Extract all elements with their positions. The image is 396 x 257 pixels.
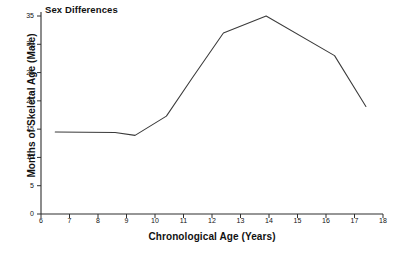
y-axis-tick-label: 0 (20, 210, 34, 217)
x-axis-tick-label: 12 (202, 217, 222, 224)
y-axis-tick-label: 30 (20, 40, 34, 47)
x-axis-tick-label: 9 (117, 217, 137, 224)
x-axis-tick-label: 15 (288, 217, 308, 224)
y-axis-label: Months of Skeletal Age (Male) (26, 11, 37, 201)
x-axis-tick-label: 6 (31, 217, 51, 224)
x-axis-tick-label: 8 (88, 217, 108, 224)
data-series-group (55, 16, 366, 135)
x-axis-label: Chronological Age (Years) (41, 231, 383, 242)
y-axis-ticks (37, 16, 41, 214)
y-axis-tick-label: 15 (20, 125, 34, 132)
y-axis-tick-label: 25 (20, 69, 34, 76)
axes (41, 12, 383, 214)
x-axis-tick-label: 11 (174, 217, 194, 224)
data-line-series-0 (55, 16, 366, 135)
x-axis-tick-label: 17 (345, 217, 365, 224)
y-axis-tick-label: 10 (20, 153, 34, 160)
y-axis-tick-label: 35 (20, 12, 34, 19)
x-axis-tick-label: 14 (259, 217, 279, 224)
x-axis-tick-label: 13 (231, 217, 251, 224)
x-axis-tick-label: 10 (145, 217, 165, 224)
chart-title: Sex Differences (45, 4, 118, 15)
chart-figure: Sex Differences Chronological Age (Years… (0, 0, 396, 257)
x-axis-tick-label: 18 (373, 217, 393, 224)
x-axis-tick-label: 16 (316, 217, 336, 224)
x-axis-tick-label: 7 (60, 217, 80, 224)
y-axis-tick-label: 20 (20, 97, 34, 104)
y-axis-tick-label: 5 (20, 182, 34, 189)
